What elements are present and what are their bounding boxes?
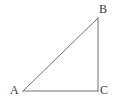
vertex-label-c: C — [100, 84, 108, 96]
triangle-figure: A B C — [0, 0, 115, 107]
vertex-label-a: A — [10, 84, 19, 96]
vertex-label-b: B — [99, 3, 107, 15]
edge-ab-hypotenuse — [23, 18, 98, 91]
